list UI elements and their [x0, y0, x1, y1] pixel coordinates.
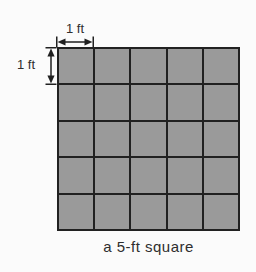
grid-cell — [59, 195, 93, 229]
grid-cell — [131, 122, 165, 156]
grid-cell — [95, 195, 129, 229]
grid-cell — [95, 158, 129, 192]
grid-cell — [131, 195, 165, 229]
grid-cell — [95, 85, 129, 119]
grid-cell — [204, 158, 238, 192]
grid-cell — [168, 49, 202, 83]
grid-cell — [59, 158, 93, 192]
grid-cell — [204, 122, 238, 156]
grid-cell — [95, 122, 129, 156]
grid-cell — [59, 122, 93, 156]
grid-cell — [59, 85, 93, 119]
grid-cell — [131, 49, 165, 83]
figure-caption: a 5-ft square — [57, 238, 240, 255]
grid-cell — [168, 158, 202, 192]
left-dimension-label: 1 ft — [11, 57, 41, 72]
grid-cell — [59, 49, 93, 83]
grid-cell — [95, 49, 129, 83]
grid-cell — [168, 195, 202, 229]
unit-square-grid — [57, 47, 240, 231]
grid-cell — [204, 49, 238, 83]
grid-cell — [204, 195, 238, 229]
vertical-dimension-arrow-icon — [45, 47, 57, 85]
top-dimension-label: 1 ft — [56, 21, 94, 36]
grid-cell — [204, 85, 238, 119]
five-ft-square-figure: 1 ft 1 ft a 5-ft square — [0, 0, 256, 272]
grid-cell — [131, 85, 165, 119]
grid-cell — [131, 158, 165, 192]
grid-cell — [168, 85, 202, 119]
grid-cell — [168, 122, 202, 156]
